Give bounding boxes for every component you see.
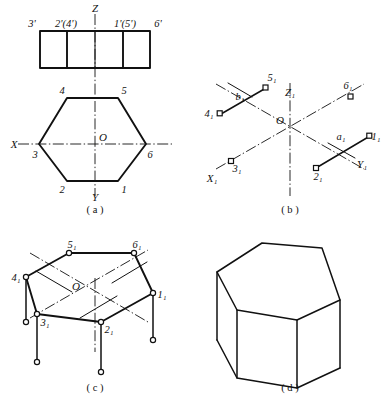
panel-c-caption: ( c ) <box>87 382 104 394</box>
panel-b-caption: ( b ) <box>281 204 299 216</box>
panel-c-label-5: 5₁ <box>68 239 77 250</box>
panel-c-point-5 <box>66 250 71 255</box>
panel-b-axis-label-z1: Z₁ <box>285 86 295 98</box>
panel-b-point-5 <box>263 85 268 90</box>
panel-a-vertex-label-6: 6 <box>147 149 153 160</box>
panel-b-label-2: 2₁ <box>314 171 323 182</box>
panel-d-caption: ( d ) <box>281 382 299 394</box>
panel-b-label-4: 4₁ <box>205 108 214 119</box>
panel-b-axis-label-x1: X₁ <box>206 172 218 184</box>
panel-c: 4₁ 5₁ 6₁ 1₁ 2₁ 3₁ O ( c ) <box>12 239 167 394</box>
panel-a-label-1-5-prime: 1'(5') <box>114 18 136 30</box>
panel-a-axis-label-x: X <box>10 138 19 150</box>
panel-b-point-4 <box>217 111 222 116</box>
panel-b-label-5: 5₁ <box>268 72 277 83</box>
panel-a-vertex-label-5: 5 <box>121 85 126 96</box>
engineering-figure: 3' 2'(4') 1'(5') 6' Z X Y O 4 5 3 6 2 1 … <box>0 0 389 400</box>
panel-c-top-hexagon <box>26 253 153 322</box>
panel-b-origin-label: O <box>276 114 284 126</box>
panel-a-origin-label: O <box>99 131 107 143</box>
panel-a-top-view-hexagon <box>39 98 146 181</box>
panel-b-label-3: 3₁ <box>232 163 242 174</box>
panel-c-label-2: 2₁ <box>105 324 114 335</box>
panel-d-top-face <box>217 243 340 320</box>
panel-a-axis-label-y: Y <box>92 191 100 203</box>
panel-c-edge-2-end <box>98 369 103 374</box>
panel-c-edge-3-end <box>34 359 39 364</box>
panel-c-point-6 <box>131 250 136 255</box>
panel-a: 3' 2'(4') 1'(5') 6' Z X Y O 4 5 3 6 2 1 … <box>10 2 172 216</box>
panel-a-vertex-label-1: 1 <box>121 184 126 195</box>
panel-c-label-1: 1₁ <box>158 289 167 300</box>
panel-c-tick-right <box>112 262 147 283</box>
panel-a-vertex-label-2: 2 <box>59 184 65 195</box>
panel-c-label-3: 3₁ <box>40 317 50 328</box>
panel-b-label-b1: b₁ <box>236 91 245 102</box>
panel-b-label-a1: a₁ <box>337 131 346 142</box>
panel-d-bottom-outline <box>217 340 340 388</box>
panel-b-axis-label-y1: Y₁ <box>357 158 367 170</box>
panel-a-vertex-label-4: 4 <box>59 85 65 96</box>
panel-a-axis-label-z: Z <box>92 2 99 14</box>
panel-c-label-6: 6₁ <box>133 239 142 250</box>
panel-c-edge-1-end <box>150 337 155 342</box>
panel-c-diagonal-centre-line-1 <box>30 250 148 318</box>
panel-a-label-2-4-prime: 2'(4') <box>55 18 77 30</box>
panel-c-tick-bottom <box>80 296 117 318</box>
panel-a-vertex-label-3: 3 <box>31 149 37 160</box>
panel-a-caption: ( a ) <box>87 204 104 216</box>
panel-c-origin-label: O <box>72 280 80 292</box>
panel-c-point-2 <box>98 319 103 324</box>
panel-b: 4₁ 5₁ 3₁ 6₁ 2₁ 1₁ b₁ a₁ Z₁ X₁ Y₁ O ( b ) <box>205 72 381 216</box>
panel-b-label-6: 6₁ <box>344 80 353 91</box>
panel-b-point-2 <box>314 166 319 171</box>
panel-a-label-3-prime: 3' <box>27 18 36 29</box>
panel-b-point-6 <box>348 94 353 99</box>
panel-c-point-3 <box>34 311 39 316</box>
panel-b-label-1: 1₁ <box>372 131 381 142</box>
panel-d: ( d ) <box>217 243 340 394</box>
panel-c-point-1 <box>150 290 155 295</box>
panel-c-label-4: 4₁ <box>12 272 21 283</box>
panel-c-edge-4-end <box>23 319 28 324</box>
panel-a-label-6-prime: 6' <box>154 18 162 29</box>
figure-page: 3' 2'(4') 1'(5') 6' Z X Y O 4 5 3 6 2 1 … <box>0 0 389 400</box>
panel-c-point-4 <box>23 274 28 279</box>
panel-c-diagonal-centre-line-2 <box>30 253 148 322</box>
